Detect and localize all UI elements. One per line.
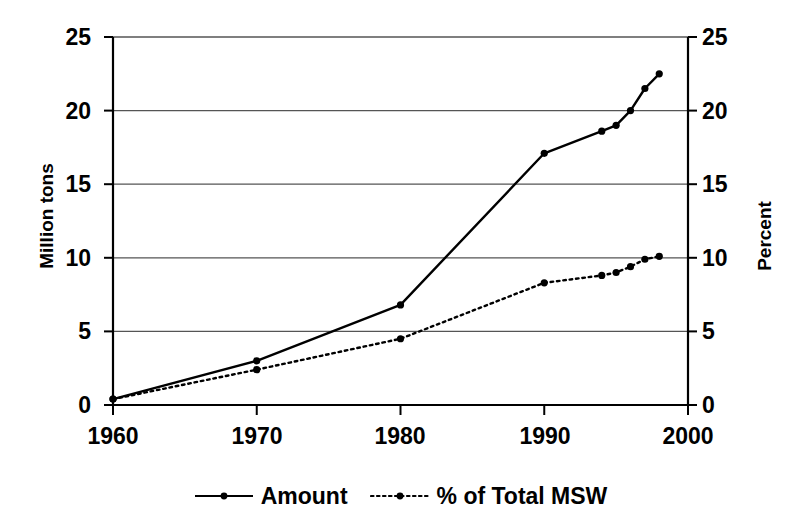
chart-legend: Amount % of Total MSW bbox=[113, 484, 688, 508]
data-point bbox=[541, 150, 548, 157]
data-point bbox=[613, 122, 620, 129]
data-point bbox=[253, 366, 260, 373]
data-point bbox=[627, 107, 634, 114]
data-point bbox=[656, 253, 663, 260]
series-line-0 bbox=[113, 74, 659, 399]
data-point bbox=[109, 396, 116, 403]
legend-swatch-solid bbox=[194, 488, 254, 504]
data-point bbox=[541, 279, 548, 286]
data-point bbox=[613, 269, 620, 276]
data-point bbox=[656, 70, 663, 77]
plot-area bbox=[0, 0, 795, 529]
data-point bbox=[397, 301, 404, 308]
data-point bbox=[598, 128, 605, 135]
data-point bbox=[641, 256, 648, 263]
axis-ticks bbox=[104, 37, 697, 415]
gridlines bbox=[113, 37, 688, 331]
legend-swatch-dotted bbox=[370, 488, 430, 504]
legend-item-percent-of-total-msw[interactable]: % of Total MSW bbox=[370, 484, 608, 508]
data-point bbox=[627, 263, 634, 270]
legend-label-percent-of-total-msw: % of Total MSW bbox=[437, 484, 608, 508]
data-point bbox=[397, 335, 404, 342]
chart-container: Million tons Percent 25 20 15 10 5 0 25 … bbox=[0, 0, 795, 529]
legend-label-amount: Amount bbox=[261, 484, 348, 508]
data-point bbox=[641, 85, 648, 92]
legend-item-amount[interactable]: Amount bbox=[194, 484, 348, 508]
data-series-layer bbox=[109, 70, 662, 403]
axis-lines bbox=[113, 37, 688, 405]
data-point bbox=[253, 357, 260, 364]
data-point bbox=[598, 272, 605, 279]
